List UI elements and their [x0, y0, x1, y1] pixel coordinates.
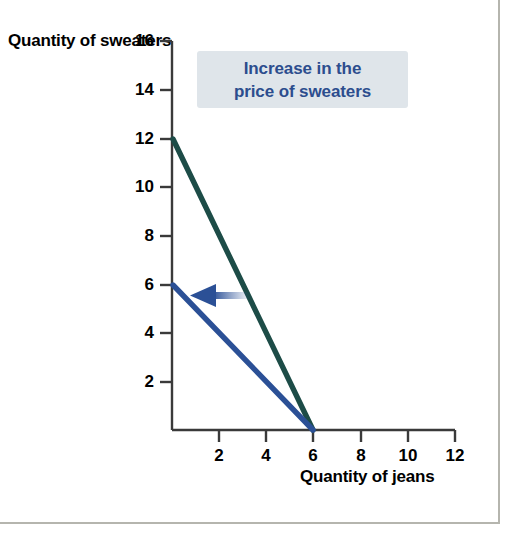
x-tick-label-12: 12: [440, 446, 470, 466]
y-tick-label-14: 14: [120, 80, 154, 100]
budget-line-original: [173, 139, 313, 430]
y-tick-label-8: 8: [120, 226, 154, 246]
x-tick-label-8: 8: [346, 446, 376, 466]
x-tick-label-4: 4: [251, 446, 281, 466]
x-tick-label-10: 10: [393, 446, 423, 466]
y-tick-label-6: 6: [120, 275, 154, 295]
figure-canvas: Quantity of sweaters Quantity of jeans I…: [0, 0, 514, 542]
x-tick-label-6: 6: [298, 446, 328, 466]
y-tick-label-4: 4: [120, 323, 154, 343]
x-tick-label-2: 2: [204, 446, 234, 466]
budget-line-new: [173, 285, 313, 430]
y-tick-label-12: 12: [120, 129, 154, 149]
shift-arrow-icon: [190, 284, 250, 307]
y-tick-label-10: 10: [120, 177, 154, 197]
y-tick-label-2: 2: [120, 372, 154, 392]
y-tick-label-16: 16: [120, 31, 154, 51]
